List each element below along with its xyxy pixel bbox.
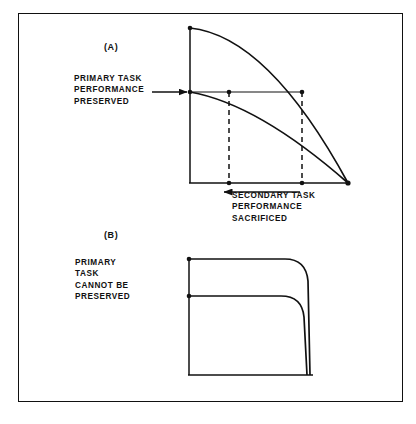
panel-a-marker-inner-intersection — [227, 90, 232, 95]
panel-a-marker-inner-origin — [188, 90, 193, 95]
panel-a-marker-outer-intersection — [300, 90, 305, 95]
panel-b-inner-curve — [189, 296, 307, 375]
figure-page: (A) PRIMARY TASK PERFORMANCE PRESERVED S… — [0, 0, 416, 424]
secondary-task-sacrificed-callout: SECONDARY TASK PERFORMANCE SACRIFICED — [232, 190, 316, 224]
panel-a-marker-outer-origin — [188, 26, 193, 31]
panel-b-marker-inner-origin — [187, 294, 192, 299]
primary-task-cannot-be-preserved-callout: PRIMARY TASK CANNOT BE PRESERVED — [75, 257, 130, 303]
panel-a-marker-common-endpoint — [345, 180, 350, 185]
panel-a-inner-curve — [190, 92, 348, 183]
panel-a-outer-curve — [190, 28, 348, 183]
panel-b-marker-outer-origin — [187, 257, 192, 262]
panel-b-outer-curve — [189, 259, 310, 375]
panel-a-graph — [152, 26, 351, 192]
panel-b-graph — [187, 257, 313, 375]
figure-drawing — [0, 0, 416, 424]
primary-task-preserved-callout: PRIMARY TASK PERFORMANCE PRESERVED — [74, 73, 144, 107]
panel-b-label: (B) — [104, 230, 118, 240]
panel-a-marker-outer-foot — [300, 181, 305, 186]
panel-a-label: (A) — [104, 42, 118, 52]
panel-a-marker-inner-foot — [227, 181, 232, 186]
